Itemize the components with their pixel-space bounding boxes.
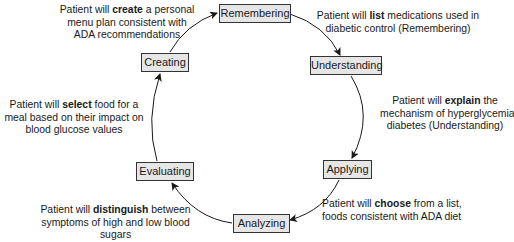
objective-evaluating: Patient will select food for a meal base… bbox=[0, 99, 148, 137]
stage-evaluating: Evaluating bbox=[136, 162, 194, 181]
stage-understanding: Understanding bbox=[310, 56, 382, 75]
objective-understanding: Patient will explain the mechanism of hy… bbox=[380, 95, 510, 133]
arrow-understanding-applying bbox=[351, 76, 363, 158]
objective-creating: Patient will create a personal menu plan… bbox=[52, 4, 202, 42]
stage-analyzing: Analyzing bbox=[233, 214, 290, 233]
stage-creating: Creating bbox=[141, 53, 189, 72]
arrow-evaluating-creating bbox=[152, 74, 160, 161]
stage-remembering: Remembering bbox=[219, 4, 291, 23]
objective-remembering: Patient will list medications used in di… bbox=[313, 10, 483, 35]
stage-applying: Applying bbox=[323, 160, 372, 179]
objective-applying: Patient will choose from a list, foods c… bbox=[322, 198, 457, 223]
objective-analyzing: Patient will distinguish between symptom… bbox=[38, 204, 193, 242]
